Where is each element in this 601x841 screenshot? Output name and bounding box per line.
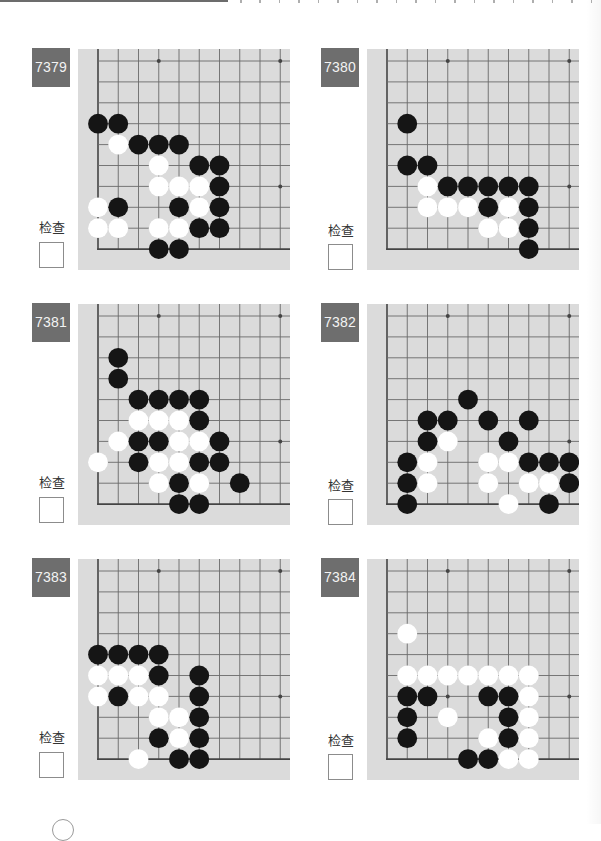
black-stone xyxy=(169,473,189,493)
black-stone xyxy=(397,494,417,514)
white-stone xyxy=(88,218,108,238)
black-stone xyxy=(189,707,209,727)
white-stone xyxy=(129,411,149,431)
white-stone xyxy=(169,432,189,452)
white-stone xyxy=(129,687,149,707)
black-stone xyxy=(230,473,250,493)
black-stone xyxy=(438,177,458,197)
black-stone xyxy=(397,687,417,707)
black-stone xyxy=(397,114,417,134)
white-stone xyxy=(108,432,128,452)
black-stone xyxy=(108,687,128,707)
black-stone xyxy=(169,390,189,410)
go-board[interactable] xyxy=(78,559,290,780)
white-stone xyxy=(169,452,189,472)
problem-number: 7382 xyxy=(321,303,359,342)
go-board[interactable] xyxy=(367,559,579,780)
white-stone xyxy=(499,666,519,686)
black-stone xyxy=(210,156,230,176)
black-stone xyxy=(397,728,417,748)
star-point-icon xyxy=(278,439,282,443)
problem-7384: 7384 检查 xyxy=(321,558,591,783)
black-stone xyxy=(539,452,559,472)
black-stone xyxy=(397,473,417,493)
white-stone xyxy=(438,197,458,217)
star-point-icon xyxy=(157,569,161,573)
black-stone xyxy=(149,239,169,259)
star-point-icon xyxy=(446,59,450,63)
black-stone xyxy=(129,645,149,665)
check-label: 检查 xyxy=(37,730,67,745)
white-stone xyxy=(519,707,539,727)
problem-7383: 7383 检查 xyxy=(32,558,302,783)
black-stone xyxy=(169,494,189,514)
board-grid xyxy=(78,49,290,270)
black-stone xyxy=(478,197,498,217)
problem-number: 7383 xyxy=(32,558,70,597)
black-stone xyxy=(108,114,128,134)
problem-number: 7384 xyxy=(321,558,359,597)
black-stone xyxy=(189,390,209,410)
black-stone xyxy=(499,728,519,748)
black-stone xyxy=(397,452,417,472)
white-stone xyxy=(478,473,498,493)
check-box[interactable] xyxy=(328,499,353,525)
white-stone xyxy=(108,666,128,686)
go-board[interactable] xyxy=(78,49,290,270)
star-point-icon xyxy=(278,184,282,188)
white-stone xyxy=(438,707,458,727)
check-box[interactable] xyxy=(39,242,64,268)
go-board[interactable] xyxy=(78,304,290,525)
black-stone xyxy=(169,135,189,155)
black-stone xyxy=(559,452,579,472)
problem-7382: 7382 检查 xyxy=(321,303,591,528)
check-label: 检查 xyxy=(37,475,67,490)
star-point-icon xyxy=(446,694,450,698)
page-number-circle xyxy=(52,819,74,841)
check-box[interactable] xyxy=(39,752,64,778)
black-stone xyxy=(189,687,209,707)
white-stone xyxy=(418,177,438,197)
check-label: 检查 xyxy=(37,220,67,235)
check-box[interactable] xyxy=(39,497,64,523)
white-stone xyxy=(458,666,478,686)
white-stone xyxy=(88,197,108,217)
black-stone xyxy=(210,197,230,217)
black-stone xyxy=(189,728,209,748)
white-stone xyxy=(189,197,209,217)
problem-7380: 7380 检查 xyxy=(321,48,591,273)
black-stone xyxy=(499,707,519,727)
black-stone xyxy=(519,239,539,259)
black-stone xyxy=(519,197,539,217)
white-stone xyxy=(499,494,519,514)
white-stone xyxy=(88,452,108,472)
white-stone xyxy=(438,666,458,686)
white-stone xyxy=(478,452,498,472)
go-board[interactable] xyxy=(367,49,579,270)
black-stone xyxy=(397,156,417,176)
check-box[interactable] xyxy=(328,244,353,270)
star-point-icon xyxy=(157,314,161,318)
white-stone xyxy=(189,177,209,197)
white-stone xyxy=(149,707,169,727)
black-stone xyxy=(149,135,169,155)
go-board[interactable] xyxy=(367,304,579,525)
white-stone xyxy=(129,749,149,769)
white-stone xyxy=(418,452,438,472)
black-stone xyxy=(499,177,519,197)
white-stone xyxy=(108,218,128,238)
black-stone xyxy=(108,348,128,368)
star-point-icon xyxy=(446,569,450,573)
white-stone xyxy=(418,666,438,686)
problem-7381: 7381 检查 xyxy=(32,303,302,528)
black-stone xyxy=(458,749,478,769)
white-stone xyxy=(169,707,189,727)
black-stone xyxy=(189,749,209,769)
check-label: 检查 xyxy=(326,223,356,238)
black-stone xyxy=(519,218,539,238)
white-stone xyxy=(149,218,169,238)
check-box[interactable] xyxy=(328,754,353,780)
white-stone xyxy=(169,728,189,748)
white-stone xyxy=(499,749,519,769)
black-stone xyxy=(169,239,189,259)
